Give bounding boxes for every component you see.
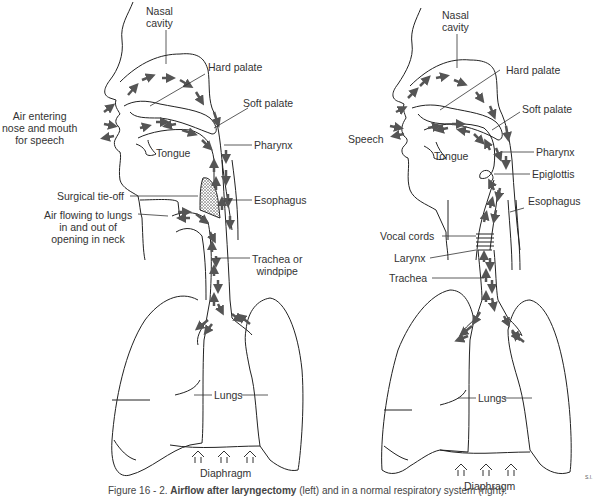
right-label-soft-palate: Soft palate bbox=[522, 103, 572, 115]
left-label-esophagus: Esophagus bbox=[254, 194, 307, 206]
left-label-trachea: Trachea or windpipe bbox=[252, 253, 302, 277]
right-leader-lines bbox=[430, 34, 534, 398]
left-panel-laryngectomy bbox=[105, 2, 303, 476]
left-label-soft-palate: Soft palate bbox=[243, 97, 293, 109]
right-label-hard-palate: Hard palate bbox=[506, 64, 560, 76]
left-airflow-arrows bbox=[104, 76, 250, 332]
right-label-speech: Speech bbox=[348, 133, 384, 145]
left-label-air-entering: Air entering nose and mouth for speech bbox=[2, 110, 77, 146]
artist-initials: S.I. bbox=[585, 474, 593, 480]
right-hard-palate bbox=[412, 105, 502, 140]
left-label-surgical-tie-off: Surgical tie-off bbox=[57, 190, 124, 202]
left-label-lungs: Lungs bbox=[214, 389, 243, 401]
right-label-trachea: Trachea bbox=[389, 272, 427, 284]
right-epiglottis bbox=[480, 170, 493, 182]
right-lung-right bbox=[508, 300, 571, 474]
caption-number: Figure 16 - 2. bbox=[108, 485, 167, 496]
right-label-esophagus: Esophagus bbox=[528, 195, 581, 207]
right-label-larynx: Larynx bbox=[394, 252, 426, 264]
left-diaphragm-arrows bbox=[192, 451, 256, 463]
right-esophagus bbox=[508, 200, 512, 270]
right-label-lungs: Lungs bbox=[478, 392, 507, 404]
right-label-pharynx: Pharynx bbox=[536, 146, 575, 158]
right-lung-left bbox=[382, 290, 474, 473]
left-leader-lines bbox=[130, 30, 268, 395]
right-airflow-arrows bbox=[390, 76, 524, 342]
left-hard-palate bbox=[124, 101, 216, 134]
right-label-epiglottis: Epiglottis bbox=[532, 168, 575, 180]
left-label-air-flowing: Air flowing to lungs in and out of openi… bbox=[44, 209, 132, 245]
left-label-nasal-cavity: Nasal cavity bbox=[146, 5, 173, 29]
left-label-tongue: Tongue bbox=[156, 147, 190, 159]
left-label-pharynx: Pharynx bbox=[254, 139, 293, 151]
left-lung-right bbox=[245, 298, 303, 471]
right-label-vocal-cords: Vocal cords bbox=[380, 230, 434, 242]
caption-title: Airflow after laryngectomy bbox=[170, 485, 296, 496]
left-diaphragm-line bbox=[170, 445, 260, 448]
right-diaphragm-arrows bbox=[455, 464, 517, 476]
right-trachea bbox=[460, 250, 482, 336]
left-neck-front bbox=[140, 200, 180, 221]
right-label-nasal-cavity: Nasal cavity bbox=[442, 9, 469, 33]
right-label-tongue: Tongue bbox=[434, 150, 468, 162]
left-label-diaphragm: Diaphragm bbox=[200, 467, 251, 479]
caption-rest: (left) and in a normal respiratory syste… bbox=[299, 485, 507, 496]
left-lung-left bbox=[112, 296, 206, 476]
figure-caption: Figure 16 - 2. Airflow after laryngectom… bbox=[108, 485, 507, 496]
left-label-hard-palate: Hard palate bbox=[208, 61, 262, 73]
